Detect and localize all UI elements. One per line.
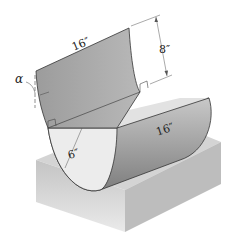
label-plate-height: 8″	[159, 43, 170, 56]
diagram-canvas: 16″ 8″ 16″ 6″ α	[0, 0, 231, 234]
label-alpha: α	[15, 72, 23, 86]
